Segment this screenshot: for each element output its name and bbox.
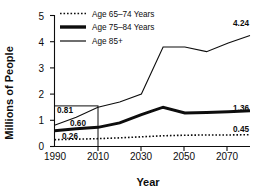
data-label-045: 0.45: [233, 125, 249, 134]
x-tick-label: 2010: [87, 151, 110, 162]
line-chart-svg: Millions of People Year 5 4 3 2 1 0 1990…: [0, 0, 254, 195]
legend-label: Age 65–74 Years: [92, 10, 154, 19]
y-tick-label: 5: [38, 11, 44, 22]
y-tick-labels: 5 4 3 2 1 0: [38, 11, 44, 152]
y-tick-marks: [50, 16, 55, 147]
legend-item-age-75-84[interactable]: Age 75–84 Years: [60, 23, 154, 32]
x-axis-title: Year: [136, 176, 160, 188]
chart-container: Millions of People Year 5 4 3 2 1 0 1990…: [0, 0, 254, 195]
x-tick-label: 2050: [173, 151, 196, 162]
x-tick-label: 1990: [44, 151, 67, 162]
x-tick-marks: [98, 147, 227, 152]
y-tick-label: 2: [38, 89, 44, 100]
legend-label: Age 85+: [92, 37, 123, 46]
series-line-age-65-74: [55, 135, 251, 140]
data-labels: 0.81 0.60 0.26 4.24 1.36 0.45: [57, 19, 249, 141]
y-tick-label: 1: [38, 115, 44, 126]
legend-label: Age 75–84 Years: [92, 23, 154, 32]
y-axis-title: Millions of People: [3, 46, 15, 140]
x-tick-label: 2030: [130, 151, 153, 162]
data-label-424: 4.24: [233, 19, 249, 28]
legend-item-age-85-plus[interactable]: Age 85+: [60, 37, 123, 46]
legend: Age 65–74 Years Age 75–84 Years Age 85+: [60, 10, 154, 47]
legend-item-age-65-74[interactable]: Age 65–74 Years: [60, 10, 154, 19]
data-label-081: 0.81: [57, 106, 73, 115]
data-label-026: 0.26: [62, 132, 78, 141]
axis-lines: [50, 15, 250, 151]
x-tick-label: 2070: [216, 151, 239, 162]
data-label-060: 0.60: [70, 119, 86, 128]
y-tick-label: 3: [38, 63, 44, 74]
data-label-136: 1.36: [233, 104, 249, 113]
x-tick-labels: 1990 2010 2030 2050 2070: [44, 151, 239, 162]
y-tick-label: 4: [38, 37, 44, 48]
